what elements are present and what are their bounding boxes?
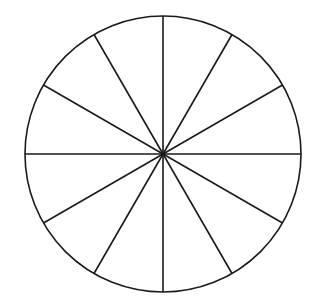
divided-circle-diagram: [0, 0, 315, 300]
center-point: [161, 152, 165, 156]
